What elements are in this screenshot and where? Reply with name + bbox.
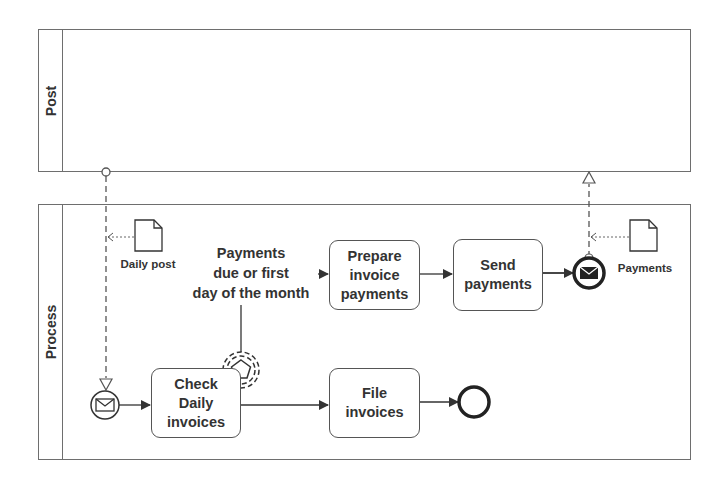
data-object-payments[interactable] [630, 220, 657, 251]
data-object-daily-post-label: Daily post [112, 258, 184, 270]
boundary-event-label: Payments due or first day of the month [182, 243, 320, 303]
association-daily-post [108, 233, 134, 241]
task-file-invoices[interactable]: File invoices [329, 368, 420, 438]
task-send-payments[interactable]: Send payments [453, 239, 543, 311]
association-payments [591, 233, 629, 241]
task-prepare-invoice-payments[interactable]: Prepare invoice payments [329, 240, 420, 310]
message-flow-payments [583, 172, 595, 258]
envelope-icon [96, 399, 114, 411]
start-message-event[interactable] [91, 391, 119, 419]
end-event[interactable] [459, 387, 489, 417]
end-message-event[interactable] [574, 258, 604, 288]
message-flow-daily-post [100, 168, 112, 390]
filled-envelope-icon [580, 267, 598, 279]
data-object-payments-label: Payments [610, 262, 680, 274]
task-check-daily-invoices[interactable]: Check Daily invoices [151, 368, 241, 438]
data-object-daily-post[interactable] [135, 220, 162, 251]
